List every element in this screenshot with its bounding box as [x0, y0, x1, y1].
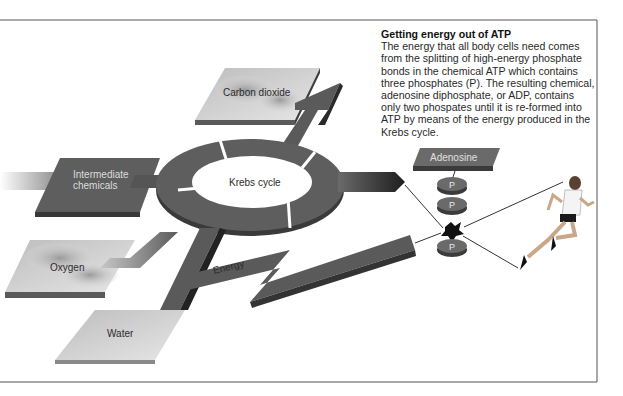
- intermediate-label-line1: Intermediate: [73, 169, 129, 180]
- caption-box: Getting energy out of ATP The energy tha…: [381, 28, 596, 138]
- bond-break-burst: [441, 222, 464, 242]
- intermediate-label-line2: chemicals: [73, 180, 117, 191]
- intermediate-chemicals-plate: Intermediate chemicals: [0, 158, 175, 217]
- atp-molecule: Adenosine P P P: [413, 148, 500, 257]
- svg-text:P: P: [449, 200, 455, 210]
- phosphate-2: P: [437, 197, 467, 215]
- oxygen-label: Oxygen: [50, 262, 84, 273]
- ring-output-pipe: [338, 172, 405, 192]
- oxygen-plate: Oxygen: [5, 232, 178, 298]
- caption-body: The energy that all body cells need come…: [381, 40, 596, 138]
- phosphate-1: P: [437, 177, 467, 195]
- krebs-cycle-ring: Krebs cycle: [156, 139, 344, 236]
- water-plate: Water: [55, 310, 185, 364]
- adenosine-label: Adenosine: [430, 152, 478, 163]
- svg-text:P: P: [449, 180, 455, 190]
- water-label: Water: [107, 328, 134, 339]
- krebs-cycle-label: Krebs cycle: [229, 177, 281, 188]
- runner-figure: [520, 176, 594, 270]
- carbon-dioxide-label: Carbon dioxide: [223, 87, 291, 98]
- caption-title: Getting energy out of ATP: [381, 28, 596, 40]
- phosphate-3: P: [437, 239, 467, 257]
- energy-bolt: Energy: [185, 235, 416, 308]
- connector-line: [405, 185, 443, 228]
- svg-text:P: P: [449, 242, 455, 252]
